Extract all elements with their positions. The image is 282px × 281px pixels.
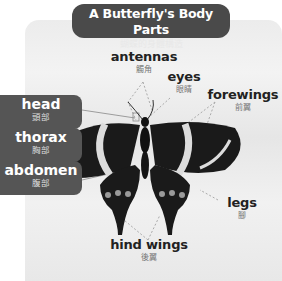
tag-head: head 頭部 (0, 95, 82, 129)
label-forewings: forewings 前翼 (205, 88, 281, 113)
tag-abdomen: abdomen 腹部 (0, 161, 82, 195)
label-hind-wings: hind wings 後翼 (104, 238, 194, 263)
label-legs: legs 腳 (222, 196, 262, 221)
title-en: A Butterfly's Body Parts (72, 6, 230, 38)
tag-thorax: thorax 胸部 (0, 128, 82, 162)
label-eyes: eyes 眼睛 (160, 70, 208, 95)
title-banner: A Butterfly's Body Parts 蝴蝶的身體構造 (72, 4, 230, 38)
